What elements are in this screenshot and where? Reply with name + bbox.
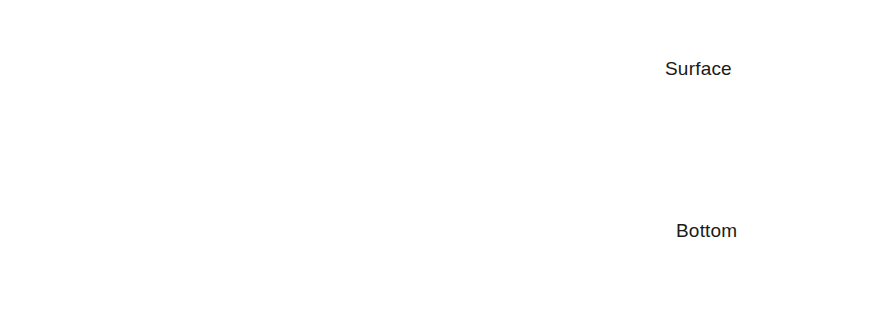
surface-label: Surface (665, 58, 732, 80)
bottom-label: Bottom (676, 220, 737, 242)
wave-diagram-canvas (0, 0, 875, 319)
wave-diagram-figure: Surface Bottom (0, 0, 875, 319)
